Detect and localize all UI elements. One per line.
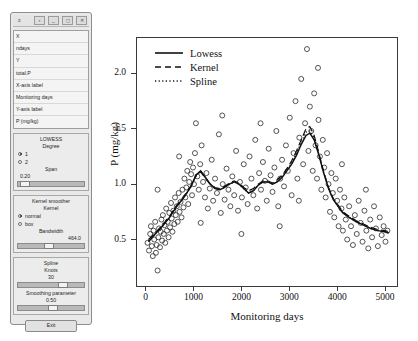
data-point <box>352 213 357 218</box>
data-point <box>282 184 287 189</box>
data-point <box>310 168 315 173</box>
list-item[interactable]: P (mg/kg) <box>14 116 88 127</box>
data-point <box>338 187 343 192</box>
list-item[interactable]: Y <box>14 55 88 67</box>
data-point <box>188 160 193 165</box>
degree-label: Degree <box>17 143 85 150</box>
data-point <box>381 224 386 229</box>
bandwidth-slider[interactable] <box>17 243 85 249</box>
data-point <box>236 208 241 213</box>
degree-option-2[interactable]: 2 <box>18 158 85 166</box>
back-icon[interactable]: ‹ <box>34 16 45 25</box>
data-point <box>177 154 182 159</box>
radio-icon[interactable] <box>18 160 22 164</box>
list-item[interactable]: X-axis label <box>14 80 88 92</box>
data-point <box>198 162 203 167</box>
y-tick <box>131 184 136 185</box>
smoothing-slider[interactable] <box>17 305 85 311</box>
data-point <box>333 176 338 181</box>
data-point <box>253 137 258 142</box>
data-point <box>347 204 352 209</box>
data-point <box>193 121 198 126</box>
spline-group: Spline Knots 30 Smoothing parameter 0.50 <box>13 257 89 315</box>
data-point <box>153 250 158 255</box>
variable-listbox[interactable]: X ndays Y total.P X-axis label Monitorin… <box>13 30 89 129</box>
legend: Lowess Kernel Spline <box>154 46 222 88</box>
data-point <box>266 146 271 151</box>
data-point <box>316 117 321 122</box>
data-point <box>205 206 210 211</box>
data-point <box>214 191 219 196</box>
data-point <box>295 176 300 181</box>
data-point <box>224 166 229 171</box>
data-point <box>189 172 194 177</box>
data-point <box>325 151 330 156</box>
data-point <box>218 210 223 215</box>
knots-value: 30 <box>17 274 85 281</box>
knots-slider[interactable] <box>17 282 85 288</box>
y-axis-title: P (mg/kg) <box>108 79 120 209</box>
data-point <box>339 162 344 167</box>
smoother-control-panel: ≡ ‹ _ ◻ ✕ X ndays Y total.P X-axis label… <box>10 12 92 325</box>
data-point <box>239 231 244 236</box>
degree-option-1[interactable]: 1 <box>18 150 85 158</box>
slider-handle[interactable] <box>20 181 30 187</box>
legend-item-spline: Spline <box>154 74 222 88</box>
data-point <box>255 206 260 211</box>
lowess-title: LOWESS <box>17 136 85 143</box>
list-item[interactable]: Y-axis label <box>14 104 88 116</box>
radio-icon[interactable] <box>18 152 22 156</box>
close-icon[interactable]: ✕ <box>76 16 87 25</box>
data-point <box>187 179 192 184</box>
data-point <box>280 157 285 162</box>
data-point <box>209 157 214 162</box>
data-point <box>375 244 380 249</box>
kernel-option-box-label: box <box>25 220 33 228</box>
data-point <box>315 176 320 181</box>
data-point <box>277 224 282 229</box>
data-point <box>182 176 187 181</box>
y-tick <box>131 239 136 240</box>
legend-label-spline: Spline <box>190 76 217 87</box>
x-tick <box>193 286 194 291</box>
span-slider[interactable] <box>17 181 85 187</box>
legend-item-kernel: Kernel <box>154 60 222 74</box>
data-point <box>160 213 165 218</box>
slider-handle[interactable] <box>44 243 54 249</box>
data-point <box>234 148 239 153</box>
data-point <box>296 198 301 203</box>
kernel-option-box[interactable]: box <box>18 220 85 228</box>
list-item[interactable]: ndays <box>14 43 88 55</box>
data-point <box>299 76 304 81</box>
x-tick <box>289 286 290 291</box>
list-item[interactable]: X <box>14 31 88 43</box>
restore-icon[interactable]: ◻ <box>62 16 73 25</box>
y-tick-label: 0.5 <box>100 234 126 244</box>
data-point <box>343 217 348 222</box>
smoothing-label: Smoothing parameter <box>17 290 85 297</box>
radio-icon[interactable] <box>18 214 22 218</box>
x-tick <box>337 286 338 291</box>
data-point <box>245 202 250 207</box>
data-point <box>370 235 375 240</box>
kernel-option-normal[interactable]: normal <box>18 212 85 220</box>
data-point <box>151 228 156 233</box>
radio-icon[interactable] <box>18 222 22 226</box>
data-point <box>360 239 365 244</box>
slider-handle[interactable] <box>58 282 68 288</box>
data-point <box>239 195 244 200</box>
data-point <box>258 121 263 126</box>
x-axis-title: Monitoring days <box>136 310 398 322</box>
minimize-icon[interactable]: _ <box>48 16 59 25</box>
data-point <box>241 162 246 167</box>
y-tick-label: 2.0 <box>100 67 126 77</box>
list-item[interactable]: Monitoring days <box>14 92 88 104</box>
menu-icon[interactable]: ≡ <box>15 17 24 24</box>
bandwidth-value: 464.0 <box>17 235 85 242</box>
slider-handle[interactable] <box>48 305 58 311</box>
data-point <box>304 47 309 52</box>
data-point <box>312 91 317 96</box>
exit-button[interactable]: Exit <box>25 320 77 332</box>
data-point <box>329 171 334 176</box>
list-item[interactable]: total.P <box>14 68 88 80</box>
